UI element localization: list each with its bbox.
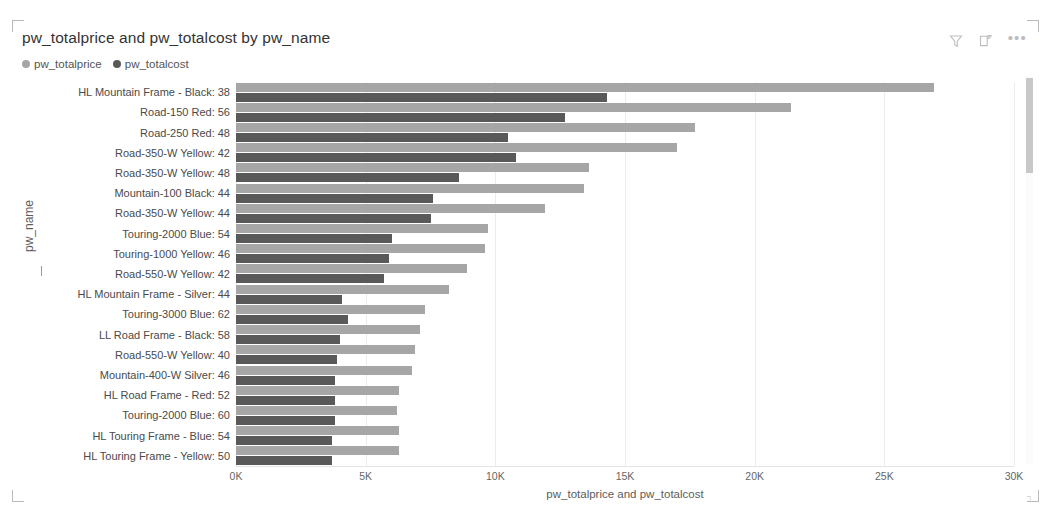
bar-group: Touring-1000 Yellow: 46 xyxy=(236,244,1014,264)
bar-pw-totalprice[interactable] xyxy=(236,426,399,435)
powerbi-visual-container: pw_totalprice and pw_totalcost by pw_nam… xyxy=(8,14,1041,506)
bar-pw-totalprice[interactable] xyxy=(236,163,589,172)
chart-legend: pw_totalprice pw_totalcost xyxy=(22,58,189,70)
x-axis-tick-label: 30K xyxy=(1005,470,1024,482)
x-axis-tick-label: 0K xyxy=(230,470,243,482)
bar-pw-totalprice[interactable] xyxy=(236,244,485,253)
bar-pw-totalprice[interactable] xyxy=(236,123,695,132)
bar-pw-totalprice[interactable] xyxy=(236,345,415,354)
category-label[interactable]: Mountain-400-W Silver: 46 xyxy=(100,369,230,381)
focus-mode-icon[interactable] xyxy=(978,32,995,49)
legend-item-0[interactable]: pw_totalprice xyxy=(22,58,102,70)
bar-pw-totalcost[interactable] xyxy=(236,456,332,465)
bar-group: Road-350-W Yellow: 44 xyxy=(236,203,1014,223)
bar-pw-totalcost[interactable] xyxy=(236,274,384,283)
category-label[interactable]: Road-250 Red: 48 xyxy=(140,127,230,139)
bar-pw-totalcost[interactable] xyxy=(236,436,332,445)
x-axis-line xyxy=(236,466,1014,467)
bar-pw-totalcost[interactable] xyxy=(236,376,335,385)
bar-pw-totalcost[interactable] xyxy=(236,315,348,324)
bar-pw-totalprice[interactable] xyxy=(236,83,934,92)
category-label[interactable]: HL Mountain Frame - Black: 38 xyxy=(78,86,230,98)
bar-pair xyxy=(236,305,1014,324)
bar-group: Road-550-W Yellow: 40 xyxy=(236,345,1014,365)
category-label[interactable]: HL Touring Frame - Yellow: 50 xyxy=(83,450,230,462)
bar-pw-totalcost[interactable] xyxy=(236,416,335,425)
category-label[interactable]: Road-350-W Yellow: 48 xyxy=(115,167,230,179)
y-axis-title: pw_name xyxy=(22,200,36,252)
bar-pw-totalcost[interactable] xyxy=(236,173,459,182)
bar-pw-totalprice[interactable] xyxy=(236,305,425,314)
bar-pair xyxy=(236,325,1014,344)
bar-pw-totalprice[interactable] xyxy=(236,143,677,152)
bar-pair xyxy=(236,446,1014,465)
bar-pair xyxy=(236,264,1014,283)
vertical-scrollbar-thumb[interactable] xyxy=(1026,78,1033,173)
more-options-icon[interactable]: ••• xyxy=(1008,33,1027,48)
category-label[interactable]: Mountain-100 Black: 44 xyxy=(114,187,230,199)
bar-pw-totalcost[interactable] xyxy=(236,113,565,122)
bar-rows: HL Mountain Frame - Black: 38Road-150 Re… xyxy=(236,82,1014,466)
bar-pw-totalcost[interactable] xyxy=(236,234,392,243)
bar-pw-totalprice[interactable] xyxy=(236,386,399,395)
category-label[interactable]: Touring-1000 Yellow: 46 xyxy=(113,248,230,260)
bar-pw-totalcost[interactable] xyxy=(236,133,508,142)
visual-header-toolbar: ••• xyxy=(948,32,1027,49)
legend-label-price: pw_totalprice xyxy=(34,58,102,70)
bar-group: HL Touring Frame - Blue: 54 xyxy=(236,426,1014,446)
x-axis-title: pw_totalprice and pw_totalcost xyxy=(236,488,1014,500)
category-label[interactable]: HL Mountain Frame - Silver: 44 xyxy=(78,288,230,300)
bar-pair xyxy=(236,366,1014,385)
bar-pw-totalprice[interactable] xyxy=(236,184,584,193)
bar-pw-totalcost[interactable] xyxy=(236,295,342,304)
category-label[interactable]: Touring-2000 Blue: 60 xyxy=(122,409,230,421)
bar-pw-totalprice[interactable] xyxy=(236,224,488,233)
legend-swatch-cost xyxy=(113,60,121,68)
bar-pair xyxy=(236,123,1014,142)
category-label[interactable]: HL Touring Frame - Blue: 54 xyxy=(92,430,230,442)
bar-pw-totalcost[interactable] xyxy=(236,194,433,203)
bar-pw-totalprice[interactable] xyxy=(236,325,420,334)
bar-pw-totalcost[interactable] xyxy=(236,153,516,162)
bar-pair xyxy=(236,103,1014,122)
bar-pw-totalprice[interactable] xyxy=(236,406,397,415)
category-label[interactable]: Road-150 Red: 56 xyxy=(140,106,230,118)
bar-pw-totalcost[interactable] xyxy=(236,93,607,102)
bar-pw-totalcost[interactable] xyxy=(236,396,335,405)
bar-pair xyxy=(236,184,1014,203)
bar-group: Mountain-100 Black: 44 xyxy=(236,183,1014,203)
category-label[interactable]: Road-550-W Yellow: 42 xyxy=(115,268,230,280)
x-axis-tick-label: 20K xyxy=(745,470,764,482)
bar-pw-totalprice[interactable] xyxy=(236,264,467,273)
bar-group: HL Mountain Frame - Silver: 44 xyxy=(236,284,1014,304)
filter-icon[interactable] xyxy=(948,32,965,49)
bar-pw-totalcost[interactable] xyxy=(236,355,337,364)
category-label[interactable]: Road-550-W Yellow: 40 xyxy=(115,349,230,361)
bar-pw-totalcost[interactable] xyxy=(236,214,431,223)
bar-pw-totalprice[interactable] xyxy=(236,103,791,112)
bar-group: Road-250 Red: 48 xyxy=(236,122,1014,142)
legend-item-1[interactable]: pw_totalcost xyxy=(113,58,189,70)
category-label[interactable]: Touring-2000 Blue: 54 xyxy=(122,228,230,240)
bar-pw-totalprice[interactable] xyxy=(236,204,545,213)
bar-pair xyxy=(236,204,1014,223)
x-axis-tick-label: 25K xyxy=(875,470,894,482)
y-axis-tick-mark xyxy=(41,266,42,276)
category-label[interactable]: Road-350-W Yellow: 42 xyxy=(115,147,230,159)
x-axis-tick-label: 5K xyxy=(359,470,372,482)
category-label[interactable]: LL Road Frame - Black: 58 xyxy=(99,329,230,341)
bar-pw-totalcost[interactable] xyxy=(236,254,389,263)
bar-group: Road-150 Red: 56 xyxy=(236,102,1014,122)
bar-pw-totalprice[interactable] xyxy=(236,285,449,294)
bar-pair xyxy=(236,386,1014,405)
category-label[interactable]: Road-350-W Yellow: 44 xyxy=(115,207,230,219)
bar-group: HL Touring Frame - Yellow: 50 xyxy=(236,446,1014,466)
bar-pw-totalprice[interactable] xyxy=(236,366,412,375)
bar-pair xyxy=(236,224,1014,243)
bar-pw-totalprice[interactable] xyxy=(236,446,399,455)
resize-grip-icon[interactable]: ┐ xyxy=(1027,492,1035,500)
bar-pw-totalcost[interactable] xyxy=(236,335,340,344)
visual-title: pw_totalprice and pw_totalcost by pw_nam… xyxy=(22,29,330,47)
category-label[interactable]: Touring-3000 Blue: 62 xyxy=(122,308,230,320)
category-label[interactable]: HL Road Frame - Red: 52 xyxy=(104,389,230,401)
